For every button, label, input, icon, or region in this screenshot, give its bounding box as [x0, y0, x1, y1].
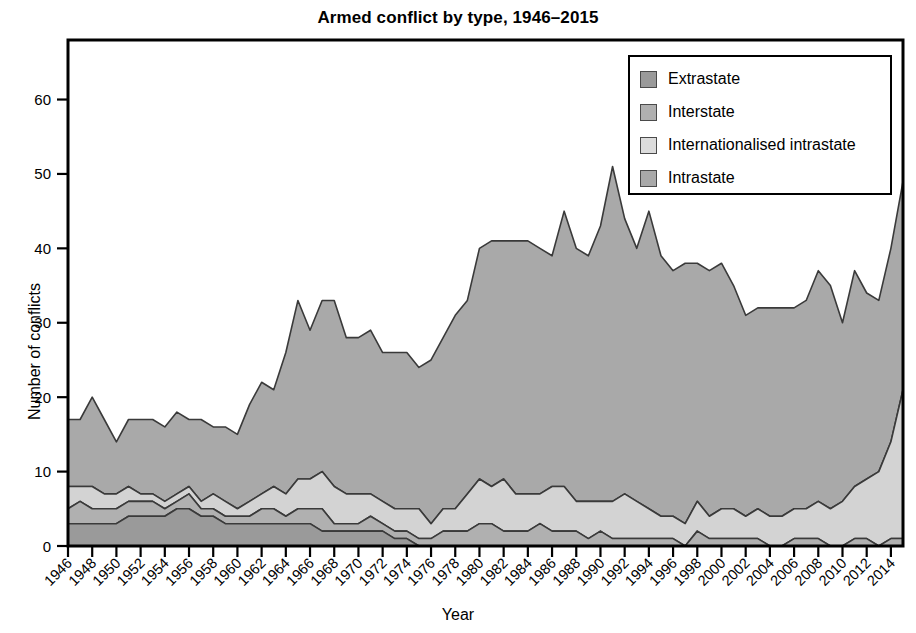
area-band-intrastate [68, 167, 903, 524]
y-tick-label: 0 [43, 538, 51, 555]
chart-legend: Extrastate Interstate Internationalised … [628, 55, 892, 195]
y-tick-label: 40 [34, 240, 51, 257]
y-axis-ticks: 0102030405060 [34, 91, 68, 554]
y-tick-label: 30 [34, 314, 51, 331]
x-tick-label: 2014 [864, 555, 898, 589]
legend-label-intrastate: Intrastate [668, 169, 735, 187]
legend-item-interstate: Interstate [640, 98, 735, 126]
legend-label-internationalised-intrastate: Internationalised intrastate [668, 136, 856, 154]
legend-item-extrastate: Extrastate [640, 65, 740, 93]
legend-swatch-extrastate [640, 71, 657, 88]
y-tick-label: 20 [34, 389, 51, 406]
legend-swatch-intrastate [640, 170, 657, 187]
y-tick-label: 10 [34, 463, 51, 480]
area-bands [68, 167, 903, 547]
y-tick-label: 50 [34, 165, 51, 182]
legend-label-extrastate: Extrastate [668, 70, 740, 88]
x-axis-ticks: 1946194819501952195419561958196019621964… [41, 546, 898, 589]
legend-swatch-interstate [640, 104, 657, 121]
legend-item-internationalised-intrastate: Internationalised intrastate [640, 131, 856, 159]
legend-swatch-internationalised-intrastate [640, 137, 657, 154]
legend-label-interstate: Interstate [668, 103, 735, 121]
y-tick-label: 60 [34, 91, 51, 108]
chart-figure: Armed conflict by type, 1946–2015 Number… [0, 0, 916, 633]
legend-item-intrastate: Intrastate [640, 164, 735, 192]
